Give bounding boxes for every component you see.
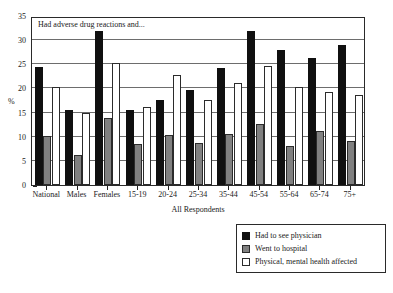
bar[interactable] [277, 50, 285, 185]
x-axis-tick-label: 20-24 [152, 190, 182, 200]
x-axis-title: All Respondents [31, 205, 365, 215]
bar[interactable] [295, 87, 303, 186]
x-axis-tick-labels: NationalMalesFemales15-1920-2425-3435-44… [31, 190, 365, 202]
y-axis-tick-label: 20 [6, 85, 26, 93]
bar[interactable] [355, 95, 363, 185]
bar[interactable] [338, 45, 346, 186]
bar[interactable] [247, 31, 255, 186]
bar[interactable] [186, 90, 194, 185]
bar[interactable] [43, 136, 51, 185]
bar-group [308, 18, 333, 185]
bar-group [186, 18, 211, 185]
bar[interactable] [52, 87, 60, 186]
plot-area: Had adverse drug reactions and... [31, 17, 365, 186]
y-axis-tick-label: 10 [6, 134, 26, 142]
white-square-swatch [242, 258, 250, 266]
x-axis-tick-label: 25-34 [183, 190, 213, 200]
legend-item[interactable]: Had to see physician [242, 229, 380, 242]
bar[interactable] [112, 63, 120, 185]
bar-group [156, 18, 181, 185]
plot-annotation: Had adverse drug reactions and... [38, 20, 145, 30]
bar[interactable] [165, 135, 173, 185]
x-axis-tick-label: 15-19 [122, 190, 152, 200]
bar[interactable] [325, 92, 333, 185]
bar-group [35, 18, 60, 185]
bar[interactable] [126, 110, 134, 185]
chart-legend: Had to see physicianWent to hospitalPhys… [236, 224, 386, 273]
x-axis-tick-label: National [31, 190, 61, 200]
bar[interactable] [217, 68, 225, 185]
bar[interactable] [82, 113, 90, 185]
y-axis-tick-label: 15 [6, 110, 26, 118]
x-axis-tick-label: Females [92, 190, 122, 200]
legend-item[interactable]: Went to hospital [242, 242, 380, 255]
bar[interactable] [65, 110, 73, 185]
bar[interactable] [134, 144, 142, 185]
bar[interactable] [347, 141, 355, 185]
bar[interactable] [35, 67, 43, 185]
bar[interactable] [286, 146, 294, 185]
bar[interactable] [256, 124, 264, 185]
x-axis-tick-label: 45-54 [244, 190, 274, 200]
x-axis-tick-label: 55-64 [274, 190, 304, 200]
legend-item-label: Had to see physician [255, 231, 321, 240]
bar[interactable] [234, 83, 242, 185]
bar-group [247, 18, 272, 185]
bar-group [277, 18, 302, 185]
bar-group [65, 18, 90, 185]
x-axis-tick-label: 65-74 [304, 190, 334, 200]
gray-square-swatch [242, 245, 250, 253]
bar[interactable] [308, 58, 316, 185]
bar[interactable] [316, 131, 324, 185]
y-axis-tick-labels: 05101520253035 [6, 0, 26, 293]
x-axis-tick-label: 35-44 [213, 190, 243, 200]
bar[interactable] [195, 143, 203, 185]
bar-group [338, 18, 363, 185]
bar-chart-figure: % 05101520253035 Had adverse drug reacti… [0, 0, 393, 293]
y-axis-tick-label: 25 [6, 61, 26, 69]
bar[interactable] [264, 66, 272, 185]
y-axis-tick-label: 30 [6, 37, 26, 45]
bar-group [217, 18, 242, 185]
bar-group [126, 18, 151, 185]
legend-item[interactable]: Physical, mental health affected [242, 255, 380, 268]
legend-item-label: Went to hospital [255, 244, 307, 253]
bar[interactable] [104, 118, 112, 185]
bar-series-container [32, 18, 364, 185]
bar[interactable] [173, 75, 181, 185]
x-axis-tick-label: Males [61, 190, 91, 200]
bar-group [95, 18, 120, 185]
bar[interactable] [95, 31, 103, 185]
x-axis-tick-label: 75+ [335, 190, 365, 200]
y-axis-tick-label: 35 [6, 13, 26, 21]
bar[interactable] [225, 134, 233, 185]
bar[interactable] [204, 100, 212, 185]
y-axis-tick-label: 5 [6, 158, 26, 166]
y-axis-tick-label: 0 [6, 182, 26, 190]
bar[interactable] [156, 100, 164, 185]
legend-item-label: Physical, mental health affected [255, 257, 357, 266]
black-square-swatch [242, 232, 250, 240]
bar[interactable] [74, 155, 82, 185]
bar[interactable] [143, 107, 151, 185]
